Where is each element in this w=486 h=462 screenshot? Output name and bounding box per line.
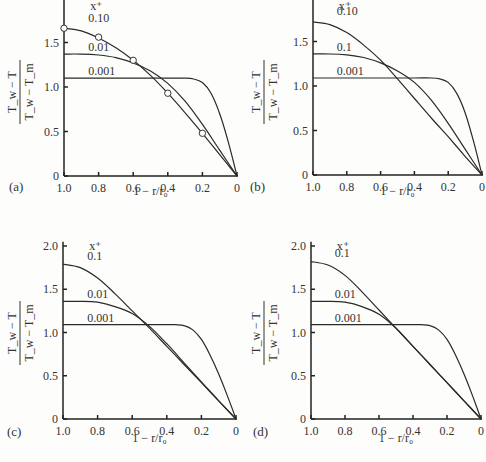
x-tick-label: 1.0 [57,181,72,195]
y-tick-label: 1.0 [43,326,58,340]
x-tick-label: 0 [478,424,484,438]
svg-text:T_w − T: T_w − T [249,70,263,113]
x-tick-label: 0.2 [194,424,209,438]
x-tick-label: 0.8 [338,424,353,438]
x-tick-label: 0.8 [339,180,354,194]
data-marker [130,57,136,63]
curve-x-plus-0.1 [311,262,481,419]
data-marker [61,25,67,31]
curve-label: 0.001 [335,311,362,325]
curve-label: 0.1 [335,246,350,260]
x-axis-label: 1 − r/r₀ [132,431,166,445]
y-tick-label: 0.5 [43,369,58,383]
curve-label: 0.10 [88,11,109,25]
panel-label: (a) [9,179,23,194]
curve-label: 0.10 [337,4,358,18]
y-tick-label: 0.5 [291,369,306,383]
y-axis-label: T_w − TT_w − T_m [249,60,280,124]
curve-x-plus-0.001 [311,325,481,419]
x-axis-label: 1 − r/r₀ [133,184,167,198]
svg-text:T_w − T_m: T_w − T_m [266,304,280,362]
svg-text:T_w − T_m: T_w − T_m [22,304,36,362]
x-axis-label: 1 − r/r₀ [379,431,413,445]
curve-label: 0.001 [337,64,364,78]
y-tick-label: 0.5 [293,124,308,138]
y-tick-label: 2.0 [291,239,306,253]
x-tick-label: 0.8 [90,424,105,438]
y-tick-label: 1.0 [44,80,59,94]
data-marker [199,130,205,136]
curve-x-plus-0.001 [64,78,237,176]
y-tick-label: 1.0 [291,326,306,340]
x-tick-label: 0.2 [195,181,210,195]
x-tick-label: 0 [233,424,239,438]
y-tick-label: 1.5 [44,36,59,50]
x-tick-label: 0 [234,181,240,195]
chart-panel-a: 00.51.01.51.00.80.60.40.201 − r/r₀T_w − … [5,0,240,198]
y-axis-label: T_w − TT_w − T_m [5,301,36,365]
panel-label: (c) [7,424,21,439]
y-tick-label: 2.0 [43,239,58,253]
curve-x-plus-0.001 [313,78,482,175]
curve-label: 0.001 [87,311,114,325]
svg-text:T_w − T: T_w − T [5,70,19,113]
chart-panel-c: 00.51.01.52.01.00.80.60.40.201 − r/r₀T_w… [5,239,239,445]
y-tick-label: 1.0 [293,79,308,93]
curve-x-plus-0.001 [63,325,236,419]
curve-label: 0.01 [87,287,108,301]
curve-label: 0.001 [88,64,115,78]
curve-label: 0.01 [335,287,356,301]
figure: 00.51.01.51.00.80.60.40.201 − r/r₀T_w − … [0,0,486,462]
x-axis-label: 1 − r/r₀ [380,184,414,198]
y-tick-label: 1.5 [291,282,306,296]
y-tick-label: 0.5 [44,125,59,139]
curve-label: 0.01 [88,40,109,54]
svg-text:T_w − T: T_w − T [5,311,19,354]
x-tick-label: 1.0 [306,180,321,194]
svg-text:T_w − T: T_w − T [249,311,263,354]
curve-label: 0.1 [87,249,102,263]
x-tick-label: 0.2 [441,180,456,194]
panel-label: (d) [253,424,268,439]
y-tick-label: 1.5 [293,35,308,49]
data-marker [95,34,101,40]
svg-text:T_w − T_m: T_w − T_m [266,63,280,121]
chart-panel-d: 00.51.01.52.01.00.80.60.40.201 − r/r₀T_w… [249,239,484,445]
data-marker [165,90,171,96]
x-tick-label: 0.2 [440,424,455,438]
x-tick-label: 0.8 [91,181,106,195]
x-tick-label: 1.0 [56,424,71,438]
panel-label: (b) [250,179,265,194]
chart-panel-b: 00.51.01.51.00.80.60.40.201 − r/r₀T_w − … [249,0,485,198]
y-axis-label: T_w − TT_w − T_m [5,60,36,124]
y-axis-label: T_w − TT_w − T_m [249,301,280,365]
y-tick-label: 1.5 [43,282,58,296]
curve-label: 0.1 [337,40,352,54]
x-tick-label: 0 [479,180,485,194]
x-tick-label: 1.0 [304,424,319,438]
svg-text:T_w − T_m: T_w − T_m [22,63,36,121]
